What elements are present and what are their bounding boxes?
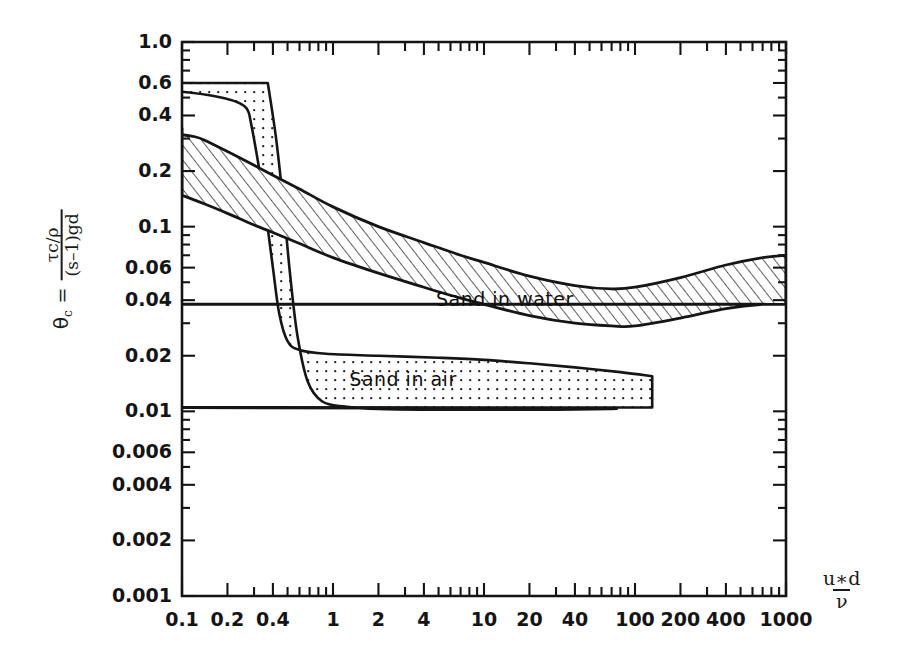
figure-background xyxy=(0,0,918,661)
figure-root: θc = τc/ρ (s–1)gd u∗d ν 1.00.60.40.20.10… xyxy=(0,0,918,661)
shields-diagram-svg xyxy=(0,0,918,661)
chart-canvas: θc = τc/ρ (s–1)gd u∗d ν 1.00.60.40.20.10… xyxy=(0,0,918,661)
